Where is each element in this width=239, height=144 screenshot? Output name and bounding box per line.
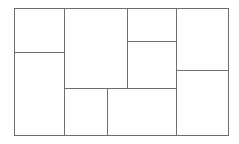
partition-diagram — [0, 0, 239, 144]
cell-right-top — [177, 9, 229, 71]
cell-left-top — [15, 9, 65, 53]
cell-mid-right-top — [128, 9, 177, 42]
cell-bottom-center — [108, 89, 177, 136]
cell-mid-right-mid — [128, 42, 177, 89]
cell-center-top — [65, 9, 128, 89]
cell-bottom-left-sm — [65, 89, 108, 136]
cell-right-bottom — [177, 71, 229, 136]
cell-left-bottom — [15, 53, 65, 136]
